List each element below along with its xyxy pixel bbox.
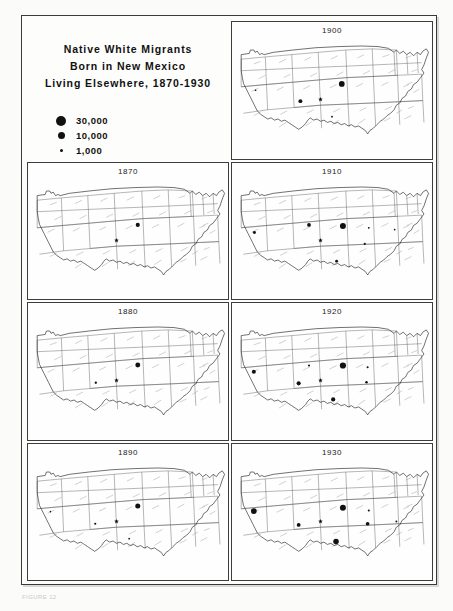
migrant-dot-texas	[128, 537, 130, 539]
migrant-dot-colorado	[135, 503, 140, 508]
legend-label-10000: 10,000	[76, 130, 108, 141]
year-label-1930: 1930	[232, 448, 432, 457]
year-label-1880: 1880	[28, 307, 228, 316]
migrant-dot-california	[252, 370, 256, 374]
legend-label-30000: 30,000	[76, 115, 108, 126]
figure-plate: Native White Migrants Born in New Mexico…	[0, 0, 453, 611]
legend-dot-large-icon	[49, 116, 73, 126]
migrant-dot-oklahoma	[366, 521, 370, 525]
migrant-dot-arizona	[94, 522, 96, 524]
us-coastline	[37, 186, 224, 274]
migrant-dot-kansas	[367, 366, 369, 368]
us-map-1880	[28, 303, 228, 440]
migrant-dot-texas	[331, 116, 333, 118]
origin-state-star-icon	[114, 238, 119, 242]
year-label-1900: 1900	[232, 26, 432, 35]
migrant-dot-colorado	[135, 362, 140, 367]
us-map-1870	[28, 163, 228, 300]
origin-state-star-icon	[318, 238, 323, 242]
map-panel-1870[interactable]: 1870	[27, 162, 229, 301]
origin-state-star-icon	[114, 378, 119, 382]
migrant-dot-colorado	[340, 362, 346, 368]
migrant-dot-california	[255, 89, 257, 91]
migrant-dot-arizona	[298, 99, 302, 103]
migrant-dot-california	[253, 230, 256, 233]
year-label-1890: 1890	[28, 448, 228, 457]
migrant-dot-oklahoma	[364, 242, 366, 244]
migrant-dot-california	[251, 508, 257, 514]
legend-label-1000: 1,000	[76, 145, 102, 156]
us-map-1930	[232, 444, 432, 581]
migrant-dot-texas	[331, 397, 335, 401]
us-map-1920	[232, 303, 432, 440]
migrant-dot-colorado	[136, 222, 140, 226]
title-line-3: Living Elsewhere, 1870-1930	[27, 75, 229, 92]
map-panel-1900[interactable]: 1900	[231, 21, 433, 160]
us-coastline	[37, 467, 224, 555]
us-coastline	[37, 327, 224, 415]
us-coastline	[241, 46, 428, 134]
us-coastline	[241, 327, 428, 415]
map-panel-1890[interactable]: 1890	[27, 443, 229, 582]
migrant-dot-arizona	[95, 382, 97, 384]
migrant-dot-missouri	[395, 520, 397, 522]
year-label-1920: 1920	[232, 307, 432, 316]
migrant-dot-colorado	[340, 223, 346, 229]
year-label-1910: 1910	[232, 167, 432, 176]
migrant-dot-missouri	[394, 228, 396, 230]
migrant-dot-kansas	[368, 509, 370, 511]
us-coastline	[241, 186, 428, 274]
migrant-dot-arizona	[297, 381, 301, 385]
title-legend-block: Native White Migrants Born in New Mexico…	[27, 21, 229, 160]
map-panel-1910[interactable]: 1910	[231, 162, 433, 301]
map-panel-grid: Native White Migrants Born in New Mexico…	[26, 20, 434, 582]
us-map-1910	[232, 163, 432, 300]
migrant-dot-texas	[333, 538, 339, 544]
migrant-dot-oklahoma	[365, 381, 368, 384]
migrant-dot-colorado	[339, 81, 345, 87]
legend-dot-small-icon	[49, 149, 73, 152]
migrant-dot-utah	[308, 364, 310, 366]
figure-title: Native White Migrants Born in New Mexico…	[27, 41, 229, 92]
title-line-2: Born in New Mexico	[27, 58, 229, 75]
map-panel-1920[interactable]: 1920	[231, 302, 433, 441]
legend-dot-medium-icon	[49, 132, 73, 139]
legend-item-10000: 10,000	[49, 128, 108, 143]
plate-outer-frame: Native White Migrants Born in New Mexico…	[21, 15, 437, 585]
origin-state-star-icon	[318, 519, 323, 523]
map-panel-1930[interactable]: 1930	[231, 443, 433, 582]
origin-state-star-icon	[318, 97, 323, 101]
map-panel-1880[interactable]: 1880	[27, 302, 229, 441]
legend-item-1000: 1,000	[49, 143, 108, 158]
plate-inner-area: Native White Migrants Born in New Mexico…	[26, 20, 432, 580]
us-map-1890	[28, 444, 228, 581]
us-map-1900	[232, 22, 432, 159]
figure-caption: FIGURE 12	[22, 594, 57, 600]
origin-state-star-icon	[318, 378, 323, 382]
year-label-1870: 1870	[28, 167, 228, 176]
migrant-dot-utah	[307, 223, 311, 227]
migrant-dot-california	[50, 510, 52, 512]
legend-item-30000: 30,000	[49, 113, 108, 128]
migrant-dot-colorado	[340, 504, 346, 510]
migrant-dot-texas	[335, 259, 338, 262]
migrant-dot-kansas	[368, 226, 370, 228]
symbol-legend: 30,000 10,000 1,000	[49, 113, 108, 158]
title-line-1: Native White Migrants	[27, 41, 229, 58]
migrant-dot-arizona	[297, 522, 301, 526]
origin-state-star-icon	[114, 519, 119, 523]
